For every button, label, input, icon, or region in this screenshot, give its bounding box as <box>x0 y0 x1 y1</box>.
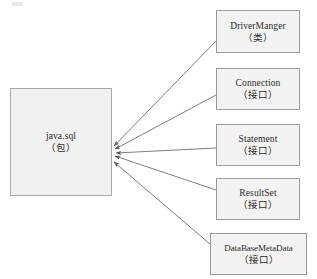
relationship-arrow <box>114 41 216 146</box>
member-node-statement[interactable]: Statement （接口） <box>216 124 300 166</box>
member-node-resultset[interactable]: ResultSet （接口） <box>216 178 300 220</box>
member-node-subtitle: （接口） <box>238 145 278 157</box>
member-node-title: Statement <box>239 133 278 145</box>
package-relationship-diagram: java.sql （包） DriverManger （类） Connection… <box>0 0 317 279</box>
member-node-subtitle: （类） <box>243 32 273 44</box>
package-node-java-sql[interactable]: java.sql （包） <box>10 88 112 196</box>
package-node-subtitle: （包） <box>46 142 76 154</box>
relationship-arrow <box>116 148 216 153</box>
package-node-title: java.sql <box>46 130 76 142</box>
member-node-subtitle: （接口） <box>238 89 278 101</box>
relationship-arrow <box>115 95 216 149</box>
member-node-title: DriverManger <box>230 20 286 32</box>
relationship-arrow <box>115 156 216 190</box>
member-node-drivermanger[interactable]: DriverManger （类） <box>216 10 300 53</box>
relationship-arrows <box>114 41 216 244</box>
member-node-subtitle: （接口） <box>238 199 278 211</box>
member-node-title: ResultSet <box>239 187 276 199</box>
member-node-title: DataBaseMetaData <box>224 242 292 254</box>
member-node-databasemetadata[interactable]: DataBaseMetaData （接口） <box>210 233 307 275</box>
member-node-connection[interactable]: Connection （接口） <box>216 68 300 110</box>
relationship-arrow <box>114 162 210 244</box>
member-node-subtitle: （接口） <box>239 254 279 266</box>
member-node-title: Connection <box>236 77 281 89</box>
